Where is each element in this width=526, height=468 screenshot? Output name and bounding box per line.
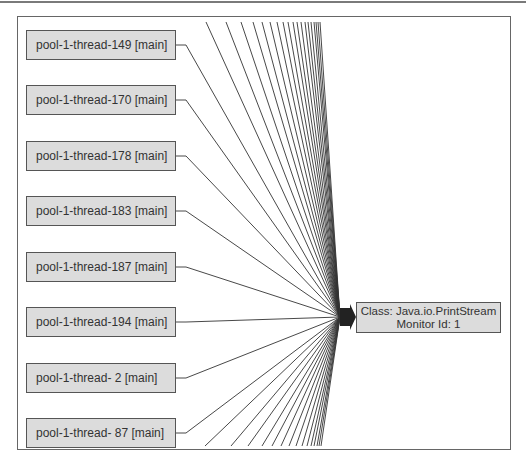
monitor-id-label: Monitor Id: 1 <box>397 318 461 331</box>
thread-node-label: pool-1-thread-170 [main] <box>36 93 167 107</box>
thread-node-label: pool-1-thread-183 [main] <box>36 204 167 218</box>
monitor-node[interactable]: Class: Java.io.PrintStream Monitor Id: 1 <box>356 302 501 333</box>
thread-node[interactable]: pool-1-thread-178 [main] <box>26 141 176 171</box>
thread-node-label: pool-1-thread- 2 [main] <box>36 371 157 385</box>
arrowhead-icon <box>340 304 356 330</box>
thread-node[interactable]: pool-1-thread-149 [main] <box>26 30 176 60</box>
monitor-class-label: Class: Java.io.PrintStream <box>361 305 497 318</box>
thread-node[interactable]: pool-1-thread-187 [main] <box>26 252 176 282</box>
thread-node-label: pool-1-thread-178 [main] <box>36 149 167 163</box>
thread-node[interactable]: pool-1-thread- 2 [main] <box>26 363 176 393</box>
thread-node[interactable]: pool-1-thread-183 [main] <box>26 196 176 226</box>
thread-node-label: pool-1-thread-187 [main] <box>36 260 167 274</box>
thread-node[interactable]: pool-1-thread-170 [main] <box>26 85 176 115</box>
thread-node-label: pool-1-thread-149 [main] <box>36 38 167 52</box>
thread-node-label: pool-1-thread- 87 [main] <box>36 426 164 440</box>
thread-node[interactable]: pool-1-thread- 87 [main] <box>26 418 176 448</box>
thread-node-label: pool-1-thread-194 [main] <box>36 315 167 329</box>
thread-node[interactable]: pool-1-thread-194 [main] <box>26 307 176 337</box>
edges-layer <box>0 0 526 468</box>
